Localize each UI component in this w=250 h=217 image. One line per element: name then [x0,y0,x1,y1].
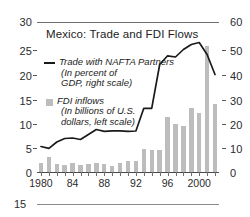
legend-entry-fdi-inflows: FDI inflows (In billions of U.S. dollars… [44,96,162,128]
x-tick-1989 [112,172,113,176]
x-tick-1993 [144,172,145,176]
x-axis-tick-labels: 1980848892962000 [37,178,219,192]
legend-entry-trade-nafta: Trade with NAFTA Partners (In percent of… [44,57,162,89]
line-swatch-icon [44,62,55,64]
legend-sub2-trade-nafta: GDP, right scale) [61,78,162,89]
x-tick-1988 [104,172,105,176]
x-tick-label-1992: 92 [121,178,151,189]
legend-sub2-fdi-inflows: dollars, left scale) [61,117,162,128]
figure-mexico-trade-fdi: Mexico: Trade and FDI Flows 0 5 10 15 20… [0,0,250,217]
legend-sub1-fdi-inflows: (In billions of U.S. [61,106,162,117]
x-tick-label-1980: 1980 [26,178,56,189]
adjacent-chart-axis-label: 15 [14,198,26,210]
x-tick-label-1988: 88 [89,178,119,189]
x-tick-1980 [41,172,42,176]
x-tick-label-2000: 2000 [184,178,214,189]
x-tick-1992 [136,172,137,176]
x-tick-1982 [57,172,58,176]
chart-plot-area: Mexico: Trade and FDI Flows 0 5 10 15 20… [0,0,250,190]
x-tick-1990 [120,172,121,176]
x-tick-1998 [183,172,184,176]
x-tick-1997 [176,172,177,176]
legend-label-trade-nafta: Trade with NAFTA Partners [59,57,174,68]
x-tick-label-1984: 84 [58,178,88,189]
x-tick-1981 [49,172,50,176]
x-tick-1994 [152,172,153,176]
x-tick-1996 [168,172,169,176]
x-tick-2001 [207,172,208,176]
x-tick-1995 [160,172,161,176]
x-tick-1991 [128,172,129,176]
x-tick-1987 [96,172,97,176]
x-tick-1984 [73,172,74,176]
x-tick-label-1996: 96 [153,178,183,189]
chart-legend: Trade with NAFTA Partners (In percent of… [44,57,162,129]
square-swatch-icon [46,99,53,106]
x-tick-1983 [65,172,66,176]
x-tick-2002 [215,172,216,176]
x-tick-1985 [81,172,82,176]
x-tick-1986 [88,172,89,176]
x-tick-1999 [191,172,192,176]
adjacent-chart-gridline [37,204,219,205]
x-tick-2000 [199,172,200,176]
adjacent-chart-partial: 15 [0,196,250,217]
